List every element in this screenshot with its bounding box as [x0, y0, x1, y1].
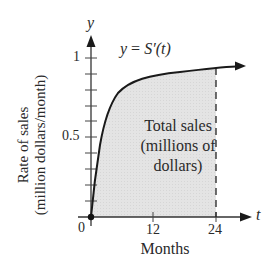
curve-label-func: S′(t): [144, 40, 171, 57]
x-axis-arrow-icon: [240, 213, 252, 222]
region-label-line1: Total sales: [118, 116, 238, 136]
shaded-region-label: Total sales (millions of dollars): [118, 116, 238, 176]
x-tick-label-0: 0: [78, 220, 85, 236]
y-tick-label-0-5: 0.5: [62, 128, 80, 144]
y-tick-label-1: 1: [73, 49, 80, 65]
x-axis-label: Months: [120, 240, 210, 258]
x-axis-name: t: [256, 206, 260, 224]
curve-label: y = S′(t): [120, 40, 171, 58]
curve-arrow-icon: [235, 62, 246, 71]
y-axis-name: y: [87, 14, 94, 32]
region-label-line2: (millions of: [118, 136, 238, 156]
curve-label-eq: =: [127, 40, 144, 57]
y-axis-label: Rate of sales (million dollars/month): [15, 55, 49, 235]
x-tick-label-12: 12: [146, 222, 160, 238]
chart-container: Rate of sales (million dollars/month) y …: [0, 0, 280, 270]
y-axis-label-line2: (million dollars/month): [32, 55, 49, 235]
y-axis-arrow-icon: [87, 35, 96, 47]
y-axis-label-line1: Rate of sales: [15, 55, 32, 235]
x-tick-label-24: 24: [208, 222, 222, 238]
region-label-line3: dollars): [118, 156, 238, 176]
origin-point: [88, 214, 94, 220]
